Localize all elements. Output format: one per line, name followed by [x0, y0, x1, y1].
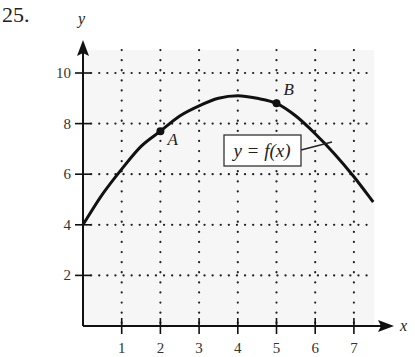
y-tick-label: 10 — [56, 65, 71, 81]
x-tick-label: 4 — [234, 340, 242, 356]
point-label-a: A — [166, 130, 178, 149]
function-label-text: y = f(x) — [231, 140, 290, 162]
x-tick-label: 6 — [311, 340, 319, 356]
x-tick-label: 2 — [157, 340, 165, 356]
point-a — [156, 127, 164, 135]
y-tick-label: 2 — [64, 267, 72, 283]
y-axis-label: y — [76, 10, 86, 28]
x-tick-label: 3 — [195, 340, 203, 356]
y-tick-label: 6 — [64, 166, 72, 182]
y-tick-label: 8 — [64, 116, 72, 132]
x-axis-label: x — [399, 317, 407, 334]
point-b — [273, 99, 281, 107]
point-label-b: B — [284, 80, 295, 99]
function-graph: x y 1234567246810 AB y = f(x) — [0, 0, 415, 357]
x-tick-label: 1 — [118, 340, 126, 356]
y-tick-label: 4 — [64, 217, 72, 233]
x-tick-label: 7 — [350, 340, 358, 356]
plot-background — [84, 50, 374, 326]
x-tick-label: 5 — [273, 340, 281, 356]
